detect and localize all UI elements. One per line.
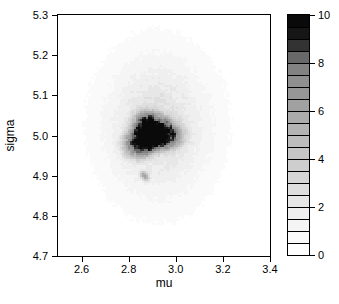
y-tick-label: 4.8 (20, 210, 48, 222)
y-tick-mark (52, 15, 57, 16)
colorbar-segment (288, 183, 309, 195)
density-heatmap-canvas (57, 14, 271, 257)
y-tick-label: 4.9 (20, 170, 48, 182)
x-tick-label: 3.2 (209, 263, 237, 275)
colorbar-segment (288, 75, 309, 87)
y-tick-mark (52, 136, 57, 137)
colorbar-tick-label: 10 (318, 9, 339, 21)
x-tick-mark (129, 257, 130, 262)
colorbar-segment (288, 231, 309, 243)
colorbar-segment (288, 207, 309, 219)
colorbar-tick-label: 8 (318, 57, 339, 69)
y-tick-mark (52, 216, 57, 217)
colorbar-tick-mark (310, 207, 315, 208)
x-tick-mark (82, 257, 83, 262)
colorbar-segment (288, 147, 309, 159)
colorbar-segment (288, 243, 309, 255)
colorbar-tick-mark (310, 15, 315, 16)
colorbar-segment (288, 63, 309, 75)
colorbar-segment (288, 27, 309, 39)
density-plot-figure: 4.74.84.95.05.15.25.3 2.62.83.03.23.4 si… (0, 0, 339, 304)
colorbar-tick-mark (310, 111, 315, 112)
x-tick-mark (223, 257, 224, 262)
colorbar-segment (288, 219, 309, 231)
colorbar (287, 14, 310, 256)
y-tick-label: 5.2 (20, 49, 48, 61)
colorbar-tick-mark (310, 63, 315, 64)
colorbar-segment (288, 195, 309, 207)
x-tick-label: 3.0 (162, 263, 190, 275)
colorbar-tick-label: 2 (318, 201, 339, 213)
x-axis-title: mu (58, 276, 270, 291)
x-tick-label: 2.8 (115, 263, 143, 275)
colorbar-segment (288, 135, 309, 147)
y-tick-mark (52, 176, 57, 177)
y-tick-label: 4.7 (20, 250, 48, 262)
x-tick-label: 2.6 (68, 263, 96, 275)
colorbar-tick-label: 4 (318, 153, 339, 165)
colorbar-segment (288, 39, 309, 51)
y-tick-mark (52, 256, 57, 257)
colorbar-segment (288, 159, 309, 171)
x-tick-mark (270, 257, 271, 262)
colorbar-segment (288, 99, 309, 111)
colorbar-tick-label: 0 (318, 249, 339, 261)
colorbar-segment (288, 171, 309, 183)
y-axis-title: sigma (3, 15, 18, 256)
colorbar-tick-mark (310, 159, 315, 160)
colorbar-tick-mark (310, 255, 315, 256)
y-tick-mark (52, 55, 57, 56)
y-tick-label: 5.1 (20, 89, 48, 101)
colorbar-segment (288, 123, 309, 135)
colorbar-tick-label: 6 (318, 105, 339, 117)
colorbar-segment (288, 111, 309, 123)
x-tick-mark (176, 257, 177, 262)
colorbar-segment (288, 87, 309, 99)
y-tick-mark (52, 95, 57, 96)
x-tick-label: 3.4 (256, 263, 284, 275)
y-tick-label: 5.0 (20, 130, 48, 142)
colorbar-segment (288, 15, 309, 27)
colorbar-segment (288, 51, 309, 63)
y-tick-label: 5.3 (20, 9, 48, 21)
